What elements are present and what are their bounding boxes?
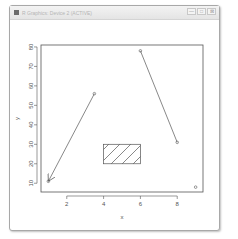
- hatched-rectangle: [104, 144, 141, 163]
- y-tick-label: 50: [28, 101, 34, 108]
- plot-box: [41, 45, 203, 192]
- y-tick-label: 70: [28, 62, 34, 69]
- y-tick-label: 20: [28, 160, 34, 167]
- segment-annotation: [140, 51, 177, 143]
- y-tick-label: 10: [28, 179, 34, 186]
- data-point: [93, 92, 96, 95]
- x-tick-label: 6: [139, 201, 143, 207]
- x-tick-label: 2: [65, 201, 69, 207]
- annotations: [48, 51, 177, 181]
- y-axis: 1020304050607080: [28, 43, 37, 187]
- x-tick-label: 8: [176, 201, 180, 207]
- y-axis-label: y: [14, 117, 20, 120]
- data-point: [194, 186, 197, 189]
- x-tick-label: 4: [102, 201, 106, 207]
- plot-area: 2468 1020304050607080 x y: [0, 0, 238, 239]
- data-points: [47, 50, 197, 189]
- arrow-annotation: [48, 94, 94, 182]
- x-axis-label: x: [121, 214, 124, 220]
- y-tick-label: 30: [28, 140, 34, 147]
- x-axis: 2468: [65, 196, 179, 207]
- y-tick-label: 40: [28, 121, 34, 128]
- plot-frame: [41, 45, 203, 192]
- y-tick-label: 60: [28, 82, 34, 89]
- y-tick-label: 80: [28, 43, 34, 50]
